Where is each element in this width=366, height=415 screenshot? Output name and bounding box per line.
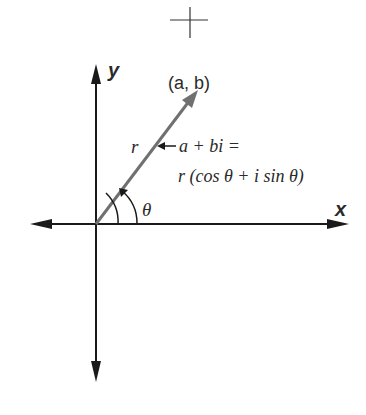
pointer-arrow <box>157 142 176 150</box>
angle-label: θ <box>142 200 151 219</box>
crosshair-mark <box>170 7 208 38</box>
equation-line-1: a + bi = <box>179 137 240 155</box>
vector-label: r <box>131 137 138 156</box>
complex-plane-diagram <box>0 0 366 415</box>
x-axis-label: x <box>335 199 346 219</box>
x-axis <box>30 219 349 229</box>
equation-text-1: a + bi = <box>179 136 240 156</box>
equation-line-2: r (cos θ + i sin θ) <box>178 167 304 185</box>
y-axis-label: y <box>108 60 119 80</box>
point-label: (a, b) <box>168 74 210 92</box>
